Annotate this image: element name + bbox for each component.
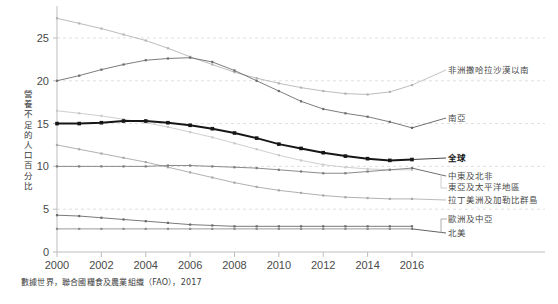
x-tick-label: 2010	[267, 259, 291, 271]
series-layer	[55, 17, 414, 230]
series-point	[344, 172, 346, 174]
series-point	[322, 108, 324, 110]
series-point	[300, 228, 302, 230]
series-point	[100, 228, 102, 230]
series-point	[189, 224, 191, 226]
series-point	[211, 228, 213, 230]
y-axis-title-char: 的	[24, 130, 33, 140]
series-point	[100, 152, 102, 154]
series-line	[57, 121, 412, 160]
y-tick-label: 15	[37, 118, 49, 130]
series-point	[389, 228, 391, 230]
series-point	[167, 126, 169, 128]
series-point	[189, 228, 191, 230]
series-point	[389, 225, 391, 227]
series-point	[122, 165, 124, 167]
x-tick-label: 2006	[178, 259, 202, 271]
series-point	[145, 59, 147, 61]
series-point	[100, 69, 102, 71]
series-point	[344, 225, 346, 227]
series-point	[322, 194, 324, 196]
series-point	[233, 166, 235, 168]
y-axis-title-char: 養	[24, 99, 33, 109]
series-point	[300, 87, 302, 89]
series-point	[322, 90, 324, 92]
series-point	[300, 100, 302, 102]
series-point	[256, 228, 258, 230]
series-point	[278, 90, 280, 92]
series-label-sub_saharan_africa: 非洲撒哈拉沙漠以南	[448, 65, 529, 75]
series-point	[167, 164, 169, 166]
series-point	[56, 144, 58, 146]
series-point	[322, 228, 324, 230]
series-point	[233, 142, 235, 144]
series-point	[144, 119, 148, 123]
series-point	[278, 154, 280, 156]
series-point	[122, 63, 124, 65]
x-tick-label: 2002	[89, 259, 113, 271]
series-point	[122, 33, 124, 35]
series-point	[411, 225, 413, 227]
y-tick-label: 10	[37, 160, 49, 172]
series-point	[300, 170, 302, 172]
series-point	[211, 136, 213, 138]
leader-line-sub_saharan_africa	[412, 70, 446, 85]
series-point	[189, 57, 191, 59]
series-point	[56, 165, 58, 167]
x-tick-label: 2004	[134, 259, 158, 271]
series-point	[55, 122, 59, 126]
series-point	[167, 47, 169, 49]
y-axis-title-char: 比	[24, 181, 33, 191]
series-point	[344, 166, 346, 168]
series-point	[145, 39, 147, 41]
y-tick-label: 5	[43, 203, 49, 215]
series-point	[56, 80, 58, 82]
series-point	[344, 196, 346, 198]
series-sub_saharan_africa	[56, 17, 413, 95]
y-axis-title-char: 不	[24, 109, 33, 119]
series-world	[55, 119, 414, 162]
series-point	[367, 225, 369, 227]
x-tick-label: 2016	[400, 259, 424, 271]
series-point	[100, 115, 102, 117]
series-point	[56, 214, 58, 216]
series-point	[300, 192, 302, 194]
series-point	[233, 69, 235, 71]
leader-line-world	[412, 158, 446, 160]
series-point	[256, 167, 258, 169]
series-point	[189, 131, 191, 133]
series-point	[367, 197, 369, 199]
series-point	[100, 217, 102, 219]
y-axis-title: 營養不足的人口百分比	[24, 89, 33, 191]
series-point	[344, 112, 346, 114]
series-point	[78, 22, 80, 24]
series-point	[145, 165, 147, 167]
y-axis-title-char: 營	[24, 89, 33, 99]
series-point	[389, 121, 391, 123]
y-axis-title-char: 人	[24, 140, 33, 150]
series-label-north_america: 北美	[448, 228, 466, 238]
series-point	[167, 57, 169, 59]
series-point	[78, 75, 80, 77]
series-point	[122, 218, 124, 220]
series-point	[100, 121, 104, 125]
series-point	[278, 189, 280, 191]
series-point	[145, 228, 147, 230]
series-point	[256, 148, 258, 150]
series-point	[122, 157, 124, 159]
series-point	[344, 154, 348, 158]
series-point	[233, 228, 235, 230]
x-tick-label: 2008	[222, 259, 246, 271]
series-point	[278, 228, 280, 230]
series-point	[367, 170, 369, 172]
series-point	[78, 215, 80, 217]
x-tick-label: 2000	[45, 259, 69, 271]
x-axis-ticks: 200020022004200620082010201220142016	[45, 252, 424, 271]
series-point	[167, 228, 169, 230]
series-point	[367, 228, 369, 230]
series-point	[189, 164, 191, 166]
series-point	[389, 198, 391, 200]
series-point	[256, 77, 258, 79]
series-south_asia	[56, 57, 413, 129]
series-point	[344, 93, 346, 95]
